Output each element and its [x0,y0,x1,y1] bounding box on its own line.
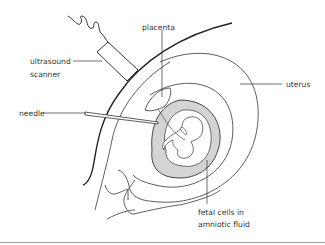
ultrasound-scanner-label-line2: scanner [30,69,60,80]
pelvic-line-lower [107,210,135,219]
needle-label: needle [19,108,45,119]
placenta-label: placenta [142,22,175,33]
ultrasound-scanner-label-line1: ultrasound [30,56,71,67]
amniocentesis-diagram [0,0,325,245]
scanner-cable [68,16,108,42]
uterus-label: uterus [286,79,310,90]
ultrasound-scanner [97,42,138,81]
bottom-rule [0,242,325,243]
fetal-cells-label-line2: amniotic fluid [198,219,250,230]
fetal-cells-label-line1: fetal cells in [198,207,244,218]
